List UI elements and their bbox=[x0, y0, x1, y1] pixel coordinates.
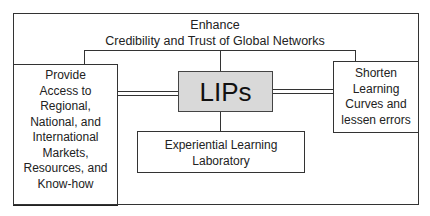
right-node-line: Learning bbox=[334, 82, 418, 98]
left-node-line: Know-how bbox=[14, 177, 117, 193]
top-label-line2: Credibility and Trust of Global Networks bbox=[13, 33, 417, 49]
left-node-line: International bbox=[14, 130, 117, 146]
left-node-line: Provide bbox=[14, 68, 117, 84]
right-node-line: Shorten bbox=[334, 66, 418, 82]
right-node-line: Curves and bbox=[334, 97, 418, 113]
node-provide-access: Provide Access to Regional, National, an… bbox=[13, 64, 118, 205]
connector-top-bracket-right bbox=[355, 50, 356, 61]
double-connector-right-a bbox=[273, 89, 333, 90]
bottom-node-line1: Experiential Learning bbox=[138, 138, 304, 154]
left-node-line: National, and bbox=[14, 115, 117, 131]
connector-center-to-bottom bbox=[220, 112, 221, 131]
left-node-line: Regional, bbox=[14, 99, 117, 115]
double-connector-left-a bbox=[118, 91, 178, 92]
node-experiential-lab: Experiential Learning Laboratory bbox=[137, 131, 305, 173]
left-node-line: Access to bbox=[14, 84, 117, 100]
right-node-line: lessen errors bbox=[334, 113, 418, 129]
left-node-line: Markets, bbox=[14, 146, 117, 162]
goal-enhance-credibility: Enhance Credibility and Trust of Global … bbox=[13, 17, 417, 49]
node-lips: LIPs bbox=[178, 71, 273, 112]
connector-center-to-top bbox=[220, 51, 221, 71]
node-shorten-learning: Shorten Learning Curves and lessen error… bbox=[333, 61, 419, 133]
bottom-node-line2: Laboratory bbox=[138, 154, 304, 170]
double-connector-left-b bbox=[118, 95, 178, 96]
double-connector-right-b bbox=[273, 93, 333, 94]
top-label-line1: Enhance bbox=[13, 17, 417, 33]
left-node-line: Resources, and bbox=[14, 161, 117, 177]
connector-top-bracket-left bbox=[84, 50, 85, 64]
lips-diagram: Enhance Credibility and Trust of Global … bbox=[0, 0, 430, 216]
